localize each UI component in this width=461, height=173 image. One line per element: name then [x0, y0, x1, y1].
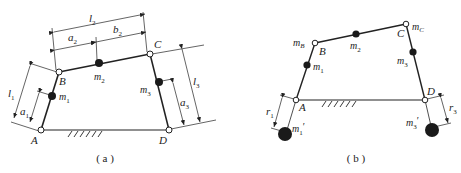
extension-d-b: [425, 100, 431, 126]
label-C-b: C: [397, 27, 405, 39]
joint-c-b: [403, 21, 409, 27]
m1-label-a: m1: [59, 91, 70, 105]
label-D-a: D: [158, 134, 167, 146]
dimension-r1: [271, 95, 294, 132]
m1-prime-label: m1′: [292, 121, 305, 137]
counterweight-m1-prime: [278, 127, 292, 141]
label-A-b: A: [298, 101, 306, 113]
ground-hatch-icon: [68, 131, 102, 137]
l1-label: l1: [8, 87, 15, 102]
joint-a-a: [38, 127, 44, 133]
link-bc-b: [315, 24, 406, 43]
label-B-b: B: [319, 45, 326, 57]
r3-label: r3: [449, 101, 457, 116]
m3-prime-label: m3′: [406, 115, 419, 131]
m2-label-a: m2: [94, 71, 105, 85]
joint-b-b: [312, 40, 318, 46]
ground-hatch-icon: [322, 101, 356, 107]
m3-label-a: m3: [140, 84, 151, 98]
dimension-a1: [30, 91, 50, 122]
joint-d-a: [166, 127, 172, 133]
a3-label: a3: [180, 96, 190, 111]
m1-label-b: m1: [313, 61, 324, 75]
counterweight-m3-prime: [425, 123, 439, 137]
caption-b: ( b ): [347, 152, 366, 165]
joint-d-b: [422, 97, 428, 103]
label-A-a: A: [30, 134, 38, 146]
label-C-a: C: [154, 38, 162, 50]
l3-label: l3: [193, 75, 200, 90]
mass-m2-a: [95, 59, 103, 67]
linkage-diagram: l1 a1 l2 a2 b2 l3 a3: [0, 0, 461, 173]
joint-a-b: [293, 97, 299, 103]
label-B-a: B: [59, 75, 66, 87]
a2-label: a2: [68, 31, 78, 46]
panel-b: r1 r3 m1 m2 m3 mB mC m1′ m3′ A B C D ( b…: [266, 21, 457, 165]
m3-label-b: m3: [397, 55, 408, 69]
dimension-l3: [152, 45, 216, 129]
caption-a: ( a ): [96, 152, 114, 165]
mass-m1-a: [48, 92, 56, 100]
b2-label: b2: [113, 23, 123, 38]
link-cd-b: [406, 24, 425, 100]
link-bc-a: [59, 54, 150, 72]
joint-c-a: [147, 51, 153, 57]
m2-label-b: m2: [350, 40, 361, 54]
mass-m2-b: [352, 30, 359, 37]
r1-label: r1: [266, 105, 274, 120]
mC-label: mC: [412, 21, 424, 34]
mass-m3-a: [155, 78, 163, 86]
mass-m3-b: [409, 48, 416, 55]
panel-a: l1 a1 l2 a2 b2 l3 a3: [8, 12, 216, 165]
mass-m1-b: [303, 61, 310, 68]
a1-label: a1: [20, 105, 30, 120]
dimension-r3: [427, 95, 451, 127]
link-cd-a: [150, 54, 169, 130]
mB-label: mB: [293, 37, 305, 50]
link-ab-a: [41, 72, 59, 130]
label-D-b: D: [426, 85, 435, 97]
